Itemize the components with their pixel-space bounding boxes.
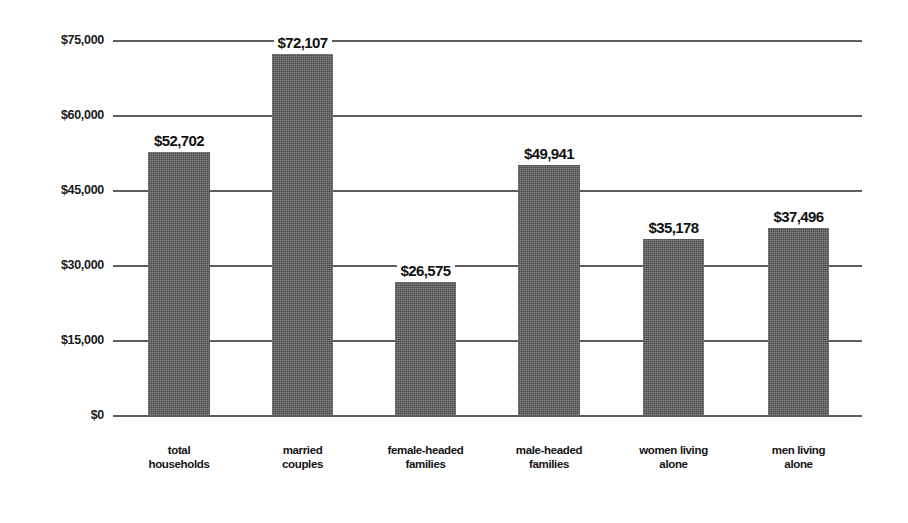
bar-value-label: $52,702 — [150, 132, 208, 149]
x-axis-label-line: male-headed — [488, 443, 610, 457]
bar-slot: $26,575 — [395, 40, 456, 415]
x-axis-category-label: women livingalone — [613, 443, 734, 471]
y-axis: $75,000$60,000$45,000$30,000$15,000$0 — [0, 40, 104, 415]
y-axis-tick-label: $60,000 — [4, 108, 104, 122]
bar-chart: $75,000$60,000$45,000$30,000$15,000$0 $5… — [0, 0, 908, 523]
y-axis-tick-label: $0 — [4, 408, 104, 422]
x-axis-label-line: women living — [613, 443, 734, 457]
x-axis-label-line: families — [488, 457, 610, 471]
bar-value-label: $35,178 — [644, 219, 702, 236]
y-axis-tick-label: $30,000 — [4, 258, 104, 272]
bar[interactable] — [148, 152, 210, 416]
x-axis-label-line: men living — [738, 443, 859, 457]
y-axis-tick-label: $45,000 — [4, 183, 104, 197]
x-axis-category-label: male-headedfamilies — [488, 443, 610, 471]
x-axis-label-line: alone — [613, 457, 734, 471]
bar-slot: $49,941 — [518, 40, 580, 415]
bar-slot: $35,178 — [643, 40, 704, 415]
gridline — [113, 190, 862, 192]
y-axis-tick-label: $15,000 — [4, 333, 104, 347]
bar[interactable] — [643, 239, 704, 415]
bar-slot: $37,496 — [768, 40, 829, 415]
bar[interactable] — [395, 282, 456, 415]
bar[interactable] — [272, 54, 333, 415]
x-axis-label-line: total — [118, 443, 240, 457]
x-axis-category-label: marriedcouples — [242, 443, 363, 471]
bar-slot: $72,107 — [272, 40, 333, 415]
bar-slot: $52,702 — [148, 40, 210, 415]
x-axis-label-line: married — [242, 443, 363, 457]
x-axis-label-line: alone — [738, 457, 859, 471]
axis-baseline — [113, 415, 862, 417]
x-axis-category-label: men livingalone — [738, 443, 859, 471]
x-axis-label-line: couples — [242, 457, 363, 471]
bar[interactable] — [518, 165, 580, 415]
x-axis-category-label: female-headedfamilies — [365, 443, 486, 471]
gridline — [113, 115, 862, 117]
x-axis-label-line: families — [365, 457, 486, 471]
gridline — [113, 40, 862, 42]
bar-value-label: $49,941 — [520, 145, 578, 162]
x-axis-category-label: totalhouseholds — [118, 443, 240, 471]
x-axis-label-line: female-headed — [365, 443, 486, 457]
bar-value-label: $72,107 — [273, 34, 331, 51]
gridline — [113, 340, 862, 342]
y-axis-tick-label: $75,000 — [4, 33, 104, 47]
bar-value-label: $26,575 — [396, 262, 454, 279]
x-axis-label-line: households — [118, 457, 240, 471]
plot-area: $52,702$72,107$26,575$49,941$35,178$37,4… — [113, 40, 862, 415]
bar-value-label: $37,496 — [769, 208, 827, 225]
bar[interactable] — [768, 228, 829, 415]
gridline — [113, 265, 862, 267]
